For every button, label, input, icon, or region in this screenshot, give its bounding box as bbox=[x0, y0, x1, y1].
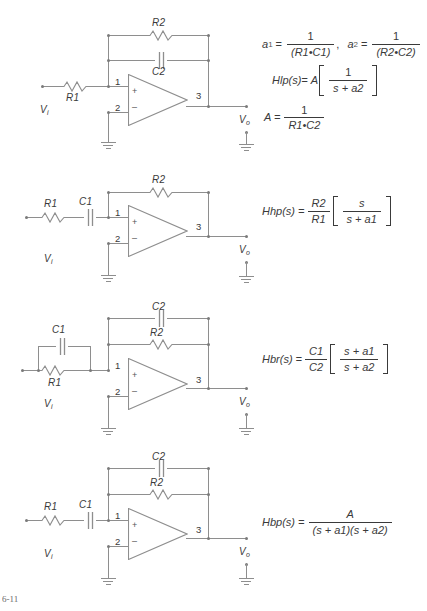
pin-label-2: 2 bbox=[115, 536, 120, 547]
formula-band-pass: Hbp(s) = A(s + a1)(s + a2) bbox=[262, 508, 427, 536]
label-vin: Vi bbox=[44, 548, 53, 559]
label-vin: Vi bbox=[44, 253, 53, 264]
node-dot bbox=[107, 369, 110, 372]
hhp-denominator: s + a1 bbox=[343, 211, 381, 226]
wire bbox=[186, 106, 246, 107]
label-vin: Vi bbox=[40, 104, 49, 115]
label-r1: R1 bbox=[44, 198, 57, 209]
circuit-band-pass: C2 R2 R1 C1 Vi bbox=[0, 450, 260, 600]
a1-numerator: 1 bbox=[304, 30, 318, 44]
circuit-low-pass: R2 C2 R1 Vi bbox=[0, 8, 260, 158]
node-dot bbox=[207, 467, 210, 470]
a2-denominator: (R2•C2) bbox=[372, 44, 419, 59]
wire bbox=[108, 35, 146, 36]
wire bbox=[94, 86, 128, 87]
inverting-sign: – bbox=[132, 233, 137, 243]
pin-label-3: 3 bbox=[196, 221, 201, 232]
inverting-sign: – bbox=[132, 102, 137, 112]
pin-label-1: 1 bbox=[115, 510, 120, 521]
wire bbox=[96, 217, 128, 218]
label-vout: Vo bbox=[239, 114, 250, 125]
node-dot bbox=[207, 105, 210, 108]
wire bbox=[108, 192, 146, 193]
label-vout: Vo bbox=[239, 546, 250, 557]
noninverting-sign: + bbox=[132, 217, 137, 227]
wire bbox=[208, 35, 209, 106]
pin-label-1: 1 bbox=[115, 76, 120, 87]
wire bbox=[246, 564, 247, 578]
label-r1: R1 bbox=[66, 92, 79, 103]
bracket-group: 1s + a2 bbox=[319, 65, 377, 95]
label-c2: C2 bbox=[152, 451, 165, 462]
node-dot bbox=[207, 537, 210, 540]
opamp-triangle-icon bbox=[128, 205, 188, 257]
node-dot bbox=[37, 369, 40, 372]
label-vout: Vo bbox=[239, 396, 250, 407]
opamp-triangle-icon bbox=[128, 508, 188, 560]
hhp-lhs: Hhp(s) = bbox=[262, 205, 305, 218]
wire bbox=[186, 388, 246, 389]
wire bbox=[90, 346, 91, 370]
wire bbox=[108, 396, 109, 428]
equals: = bbox=[361, 38, 367, 51]
label-c1: C1 bbox=[79, 499, 92, 510]
node-dot bbox=[107, 545, 110, 548]
wire bbox=[108, 112, 109, 142]
wire bbox=[180, 35, 208, 36]
hlp-gain: A bbox=[311, 74, 318, 87]
prefactor-denominator: C2 bbox=[305, 359, 327, 374]
node-dot bbox=[107, 34, 110, 37]
equals: = bbox=[276, 38, 282, 51]
inverting-sign: – bbox=[132, 386, 137, 396]
wire bbox=[246, 132, 247, 144]
node-dot bbox=[107, 59, 110, 62]
node-dot bbox=[107, 191, 110, 194]
label-r2: R2 bbox=[150, 477, 163, 488]
terminal-dot bbox=[25, 519, 28, 522]
prefactor-numerator: R2 bbox=[308, 197, 330, 211]
node-dot bbox=[107, 242, 110, 245]
node-dot bbox=[107, 519, 110, 522]
node-dot bbox=[107, 85, 110, 88]
wire bbox=[180, 494, 208, 495]
gain-numerator: 1 bbox=[297, 104, 311, 118]
resistor-zigzag-icon bbox=[146, 338, 180, 351]
hhp-numerator: s bbox=[355, 197, 369, 211]
node-dot bbox=[207, 191, 210, 194]
gain-denominator: R1•C2 bbox=[284, 117, 324, 132]
wire bbox=[108, 318, 155, 319]
node-dot bbox=[207, 387, 210, 390]
wire bbox=[246, 262, 247, 276]
hlp-denominator: s + a2 bbox=[329, 80, 367, 95]
node-dot bbox=[107, 216, 110, 219]
node-dot bbox=[207, 59, 210, 62]
hbp-denominator: (s + a1)(s + a2) bbox=[309, 522, 392, 537]
figure-caption: 6-11 bbox=[2, 594, 62, 604]
label-r1: R1 bbox=[48, 377, 61, 388]
resistor-zigzag-icon bbox=[38, 211, 72, 224]
wire bbox=[180, 344, 208, 345]
hlp-numerator: 1 bbox=[341, 66, 355, 80]
node-dot bbox=[107, 493, 110, 496]
capacitor-plates-icon bbox=[56, 338, 68, 355]
label-c2: C2 bbox=[152, 301, 165, 312]
terminal-dot bbox=[41, 85, 44, 88]
noninverting-sign: + bbox=[132, 370, 137, 380]
wire bbox=[186, 538, 246, 539]
wire bbox=[208, 192, 209, 236]
node-dot bbox=[107, 111, 110, 114]
wire bbox=[96, 520, 128, 521]
wire bbox=[22, 370, 38, 371]
node-dot bbox=[107, 395, 110, 398]
pin-label-3: 3 bbox=[196, 524, 201, 535]
wire bbox=[108, 344, 146, 345]
pin-label-2: 2 bbox=[115, 386, 120, 397]
wire bbox=[68, 346, 90, 347]
pin-label-2: 2 bbox=[115, 102, 120, 113]
gain-lhs: A = bbox=[264, 111, 280, 124]
node-dot bbox=[107, 343, 110, 346]
terminal-dot bbox=[25, 216, 28, 219]
label-r2: R2 bbox=[152, 17, 165, 28]
circuit-band-reject: C2 R2 C1 R1 Vi bbox=[0, 300, 260, 450]
formula-high-pass: Hhp(s) = R2R1 ss + a1 bbox=[262, 196, 427, 226]
